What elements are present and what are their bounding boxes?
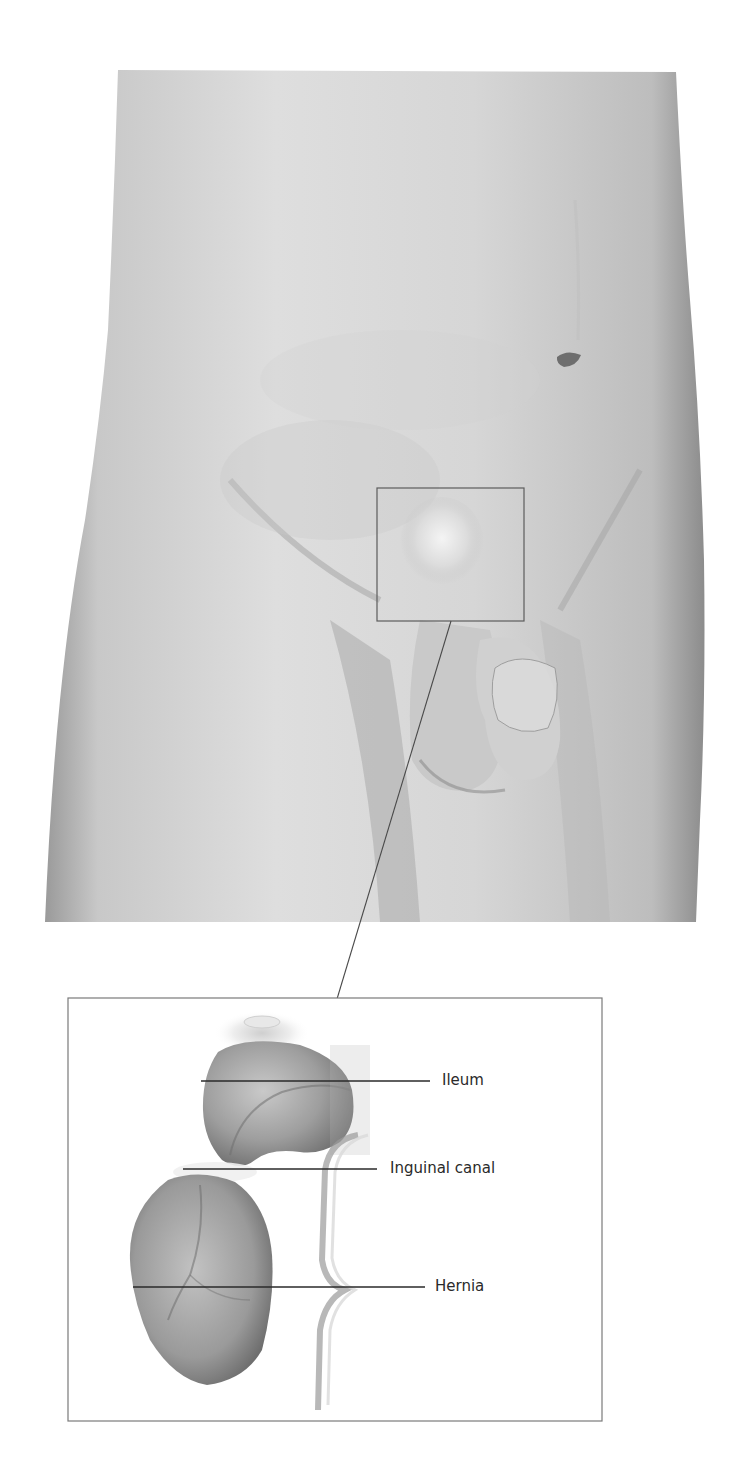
hernia-illustration: Ileum Inguinal canal Hernia [0,0,736,1478]
label-ileum: Ileum [442,1073,484,1088]
inset-panel [68,998,602,1421]
hernia-bulge [400,497,484,589]
label-hernia: Hernia [435,1279,484,1294]
illustration-canvas [0,0,736,1478]
torso-figure [45,70,705,922]
label-inguinal-canal: Inguinal canal [390,1161,495,1176]
